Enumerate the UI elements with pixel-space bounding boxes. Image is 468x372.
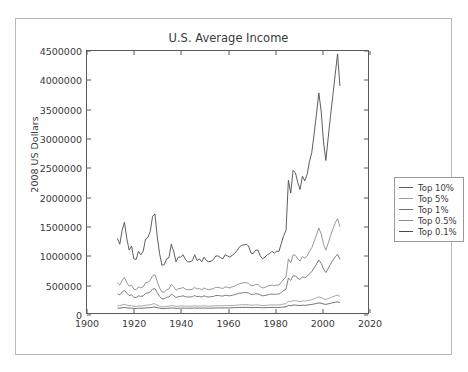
x-tick-label: 1960: [216, 313, 240, 329]
y-tick-mark: [364, 285, 368, 286]
legend-line-icon: [399, 231, 413, 232]
x-tick-mark: [87, 309, 88, 313]
y-tick-mark: [364, 227, 368, 228]
x-tick-mark: [134, 309, 135, 313]
y-tick-mark: [87, 80, 91, 81]
y-tick-mark: [364, 51, 368, 52]
chart-title: U.S. Average Income: [86, 31, 371, 45]
legend-label: Top 0.1%: [418, 227, 457, 237]
x-tick-mark: [228, 51, 229, 55]
y-tick-mark: [87, 109, 91, 110]
y-tick-label: 2000000: [40, 192, 87, 203]
legend-label: Top 0.5%: [418, 216, 457, 226]
legend-line-icon: [399, 220, 413, 221]
y-tick-mark: [87, 227, 91, 228]
y-axis-label: 2008 US Dollars: [29, 75, 40, 235]
y-tick-mark: [87, 168, 91, 169]
y-tick-mark: [364, 139, 368, 140]
x-tick-mark: [181, 51, 182, 55]
figure-container: U.S. Average Income 2008 US Dollars 0500…: [15, 18, 452, 355]
y-tick-mark: [87, 256, 91, 257]
legend-item[interactable]: Top 0.5%: [399, 215, 457, 226]
y-tick-mark: [364, 109, 368, 110]
x-tick-mark: [228, 309, 229, 313]
plot-area: 0500000100000015000002000000250000030000…: [86, 50, 369, 314]
legend-line-icon: [399, 198, 413, 199]
x-tick-label: 2000: [311, 313, 335, 329]
x-tick-mark: [370, 309, 371, 313]
y-tick-mark: [87, 197, 91, 198]
y-tick-label: 500000: [46, 280, 87, 291]
x-tick-mark: [134, 51, 135, 55]
x-tick-label: 1980: [264, 313, 288, 329]
y-tick-mark: [87, 285, 91, 286]
y-tick-mark: [364, 80, 368, 81]
y-tick-label: 4500000: [40, 46, 87, 57]
y-tick-mark: [364, 168, 368, 169]
x-tick-mark: [87, 51, 88, 55]
x-tick-label: 2020: [358, 313, 382, 329]
y-tick-label: 3000000: [40, 134, 87, 145]
y-tick-mark: [87, 139, 91, 140]
series-line: [117, 54, 339, 265]
y-tick-mark: [87, 51, 91, 52]
x-tick-mark: [370, 51, 371, 55]
legend-label: Top 5%: [418, 194, 449, 204]
y-tick-label: 4000000: [40, 75, 87, 86]
y-tick-label: 1000000: [40, 251, 87, 262]
legend-label: Top 1%: [418, 205, 449, 215]
y-tick-label: 3500000: [40, 104, 87, 115]
legend-item[interactable]: Top 5%: [399, 193, 457, 204]
x-tick-mark: [275, 309, 276, 313]
x-tick-label: 1900: [75, 313, 99, 329]
legend-line-icon: [399, 209, 413, 210]
legend-label: Top 10%: [418, 183, 454, 193]
y-tick-mark: [364, 256, 368, 257]
x-tick-mark: [322, 309, 323, 313]
series-lines: [87, 51, 368, 313]
legend-item[interactable]: Top 10%: [399, 182, 457, 193]
series-line: [117, 254, 339, 299]
x-tick-label: 1920: [122, 313, 146, 329]
y-tick-label: 1500000: [40, 222, 87, 233]
x-tick-mark: [275, 51, 276, 55]
legend-line-icon: [399, 187, 413, 188]
legend-item[interactable]: Top 1%: [399, 204, 457, 215]
legend-item[interactable]: Top 0.1%: [399, 226, 457, 237]
x-tick-mark: [181, 309, 182, 313]
y-tick-label: 2500000: [40, 163, 87, 174]
x-tick-label: 1940: [169, 313, 193, 329]
y-tick-mark: [364, 197, 368, 198]
x-tick-mark: [322, 51, 323, 55]
legend: Top 10%Top 5%Top 1%Top 0.5%Top 0.1%: [394, 177, 464, 242]
